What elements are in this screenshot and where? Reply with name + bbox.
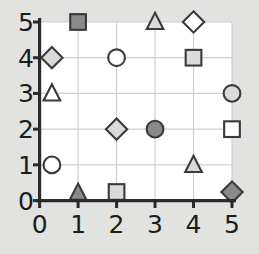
x-tick-label: 2 — [109, 210, 125, 239]
data-point-square — [70, 14, 86, 30]
x-tick-label: 1 — [70, 210, 86, 239]
y-tick-label: 5 — [18, 8, 34, 37]
scatter-plot-figure: 012345 012345 — [0, 0, 259, 254]
x-tick-label: 0 — [32, 210, 48, 239]
plot-area-background — [38, 22, 232, 202]
scatter-plot-canvas: 012345 012345 — [0, 0, 259, 254]
x-tick-label: 3 — [147, 210, 163, 239]
data-point-square — [109, 184, 125, 200]
data-point-square — [224, 121, 240, 137]
x-tick-label: 5 — [224, 210, 240, 239]
data-point-circle — [44, 157, 61, 174]
data-point-square — [186, 50, 202, 66]
y-tick-label: 1 — [18, 151, 34, 180]
x-tick-label: 4 — [186, 210, 202, 239]
y-tick-label: 2 — [18, 115, 34, 144]
data-point-circle — [224, 85, 241, 102]
y-tick-label: 3 — [18, 79, 34, 108]
y-tick-label: 0 — [18, 187, 34, 216]
data-point-circle — [147, 121, 164, 138]
data-point-circle — [108, 49, 125, 66]
y-tick-label: 4 — [18, 44, 34, 73]
